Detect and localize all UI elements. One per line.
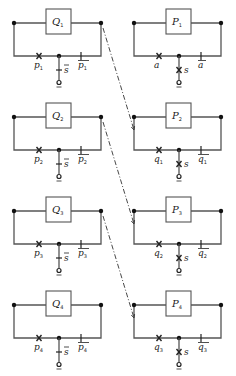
left-node (132, 115, 136, 119)
left-circuit-q1: Q1p1p1s (12, 9, 103, 87)
tick-contact-label: q1 (198, 154, 207, 165)
cross-contact-label: q2 (154, 248, 163, 259)
arrow-q3-to-p4 (103, 216, 134, 318)
cross-contact-label: q3 (154, 342, 163, 353)
left-node (12, 209, 16, 213)
left-circuit-q2: Q2p2p2s (12, 103, 103, 181)
control-contact-label: s (64, 65, 69, 75)
cross-contact-label: p1 (34, 60, 43, 71)
cross-contact-label: p3 (34, 248, 43, 259)
right-circuit-p4: P4q3q3s (132, 291, 223, 369)
cross-contact-label: p2 (34, 154, 43, 165)
terminal-icon (57, 175, 61, 179)
right-node (99, 303, 103, 307)
terminal-icon (57, 363, 61, 367)
left-circuit-q4: Q4p4p4s (12, 291, 103, 369)
right-node (99, 209, 103, 213)
cross-contact-label: a (154, 60, 159, 70)
control-contact-label: s (184, 253, 189, 263)
left-node (12, 21, 16, 25)
right-circuit-p2: P2q1q1s (132, 103, 223, 181)
left-node (12, 303, 16, 307)
tick-contact-label: p1 (78, 60, 87, 71)
control-contact-label: s (184, 159, 189, 169)
right-node (219, 303, 223, 307)
tick-contact-label: p4 (78, 342, 87, 353)
tick-contact-label: a (198, 60, 203, 70)
right-node (219, 209, 223, 213)
terminal-icon (57, 81, 61, 85)
control-contact-label: s (184, 347, 189, 357)
left-node (132, 209, 136, 213)
terminal-icon (57, 269, 61, 273)
control-contact-label: s (184, 65, 189, 75)
right-node (99, 115, 103, 119)
tick-contact-label: q2 (198, 248, 207, 259)
terminal-icon (177, 175, 181, 179)
terminal-icon (177, 363, 181, 367)
arrow-q1-to-p2 (103, 28, 134, 130)
right-node (219, 115, 223, 119)
right-node (219, 21, 223, 25)
left-node (132, 21, 136, 25)
left-node (132, 303, 136, 307)
right-node (99, 21, 103, 25)
circuit-diagram: Q1p1p1sQ2p2p2sQ3p3p3sQ4p4p4sP1aasP2q1q1s… (0, 0, 236, 376)
terminal-icon (177, 81, 181, 85)
arrow-q2-to-p3 (103, 122, 134, 224)
tick-contact-label: q3 (198, 342, 207, 353)
control-contact-label: s (64, 253, 69, 263)
control-contact-label: s (64, 159, 69, 169)
left-node (12, 115, 16, 119)
right-circuit-p3: P3q2q2s (132, 197, 223, 275)
control-contact-label: s (64, 347, 69, 357)
left-circuit-q3: Q3p3p3s (12, 197, 103, 275)
cross-contact-label: p4 (34, 342, 43, 353)
cross-contact-label: q1 (154, 154, 163, 165)
tick-contact-label: p3 (78, 248, 87, 259)
terminal-icon (177, 269, 181, 273)
tick-contact-label: p2 (78, 154, 87, 165)
right-circuit-p1: P1aas (132, 9, 223, 87)
